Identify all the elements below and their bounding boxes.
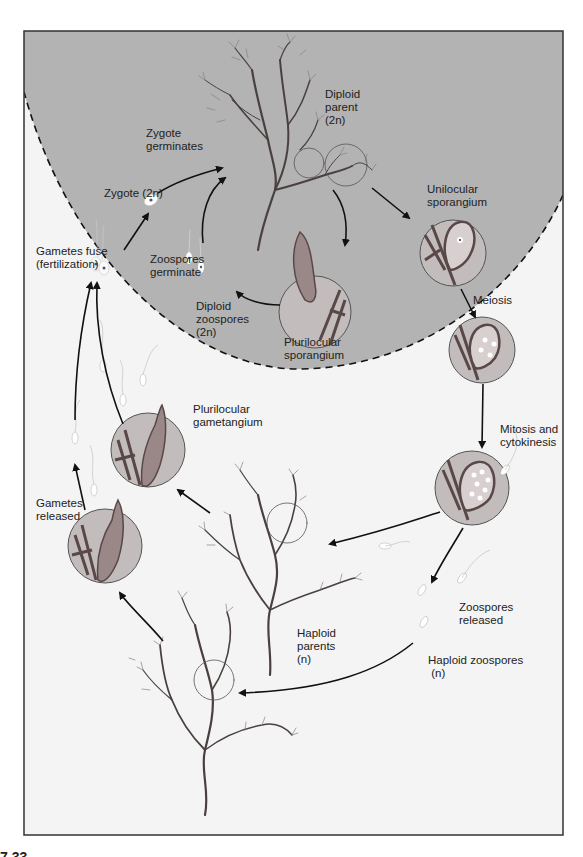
label-gametes-fuse: Gametes fuse (fertilization) xyxy=(36,245,108,271)
label-meiosis: Meiosis xyxy=(473,294,512,307)
mitosis-circle xyxy=(435,451,509,525)
label-diploid-zoospores: Diploid zoospores (2n) xyxy=(196,300,249,339)
life-cycle-diagram: Diploid parent (2n) Zygote germinates Zy… xyxy=(0,0,583,857)
label-zoospores-released: Zoospores released xyxy=(459,601,513,627)
label-zygote-germinates: Zygote germinates xyxy=(146,127,203,153)
label-unilocular-sporangium: Unilocular sporangium xyxy=(427,183,487,209)
diagram-canvas xyxy=(0,0,583,857)
figure-number: 7.33 xyxy=(0,846,27,857)
arrow-mitosis xyxy=(482,384,483,447)
label-zoospores-germinate: Zoospores germinate xyxy=(150,253,204,279)
label-gametes-released: Gametes released xyxy=(36,497,83,523)
label-mitosis-cytokinesis: Mitosis and cytokinesis xyxy=(500,423,558,449)
label-diploid-parent: Diploid parent (2n) xyxy=(325,88,360,127)
meiosis-circle xyxy=(449,317,515,383)
unilocular-sporangium-circle xyxy=(420,220,486,286)
label-haploid-zoospores: Haploid zoospores (n) xyxy=(428,654,523,680)
label-plurilocular-sporangium: Plurilocular sporangium xyxy=(284,336,344,362)
label-haploid-parents: Haploid parents (n) xyxy=(297,627,336,666)
label-plurilocular-gametangium: Plurilocular gametangium xyxy=(193,403,263,429)
label-zygote: Zygote (2n) xyxy=(104,187,163,200)
